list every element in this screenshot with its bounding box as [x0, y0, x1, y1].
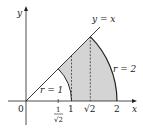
tick-label-sqrt2: √2	[84, 104, 95, 114]
inner-arc-label: r = 1	[40, 85, 63, 95]
x-axis-label: x	[132, 104, 137, 114]
tick-label-inv-sqrt2-den: √2	[54, 116, 63, 124]
y-axis-label: y	[16, 8, 23, 18]
line-label: y = x	[91, 14, 115, 24]
tick-label-one: 1	[68, 104, 74, 114]
x-axis-arrow-icon	[132, 99, 137, 103]
polar-region-diagram: y x 0 y = x r = 1 r = 2 1 √2 1 √2 2	[0, 0, 143, 131]
tick-label-two: 2	[114, 104, 120, 114]
origin-label: 0	[18, 104, 24, 114]
y-axis-arrow-icon	[24, 6, 28, 11]
shaded-region	[58, 37, 117, 101]
outer-arc-label: r = 2	[113, 64, 137, 74]
tick-label-inv-sqrt2-num: 1	[56, 106, 60, 114]
